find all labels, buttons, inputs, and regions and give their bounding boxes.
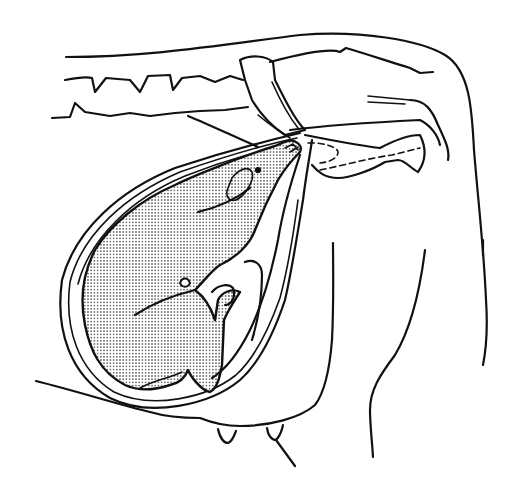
birth-canal-dashed-2 — [320, 148, 420, 170]
anatomical-illustration — [0, 0, 515, 485]
hind-leg-outline — [370, 250, 425, 457]
fetus-body — [82, 141, 300, 392]
rectum-line — [188, 116, 258, 147]
birth-canal-dashed-1 — [308, 143, 338, 163]
udder-teat-2 — [267, 425, 283, 440]
vertebral-column-bottom — [52, 103, 248, 118]
pubis — [305, 135, 425, 178]
tail-lines — [368, 96, 410, 104]
ischial-arc — [410, 100, 448, 160]
fetus — [82, 141, 300, 392]
teat-line — [276, 440, 295, 466]
sacrum-top — [270, 48, 433, 73]
vertebral-column-top — [65, 75, 243, 92]
fetus-eye-icon — [256, 168, 260, 172]
fetus-knee — [180, 279, 190, 287]
udder-teat-1 — [218, 429, 236, 443]
abdomen-fold — [245, 261, 262, 340]
